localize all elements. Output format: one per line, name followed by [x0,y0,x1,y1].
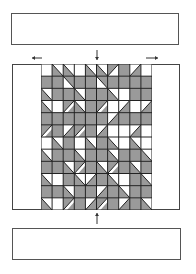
arrow-up-bottom-icon [95,213,99,224]
tile-cell [63,125,74,137]
tile-cell [74,125,85,137]
tile-cell [130,137,141,149]
tile-cell [119,101,130,113]
tile-cell [130,76,141,88]
tile-cell [41,125,52,137]
tile-cell [97,149,108,161]
tile-cell [41,88,52,100]
tile-cell [85,174,96,186]
tile-cell [85,64,96,76]
tile-cell [52,174,63,186]
tile-cell [119,137,130,149]
tile-cell [97,88,108,100]
tile-cell [97,113,108,125]
tile-cell [130,149,141,161]
tile-cell [85,137,96,149]
tile-cell [74,137,85,149]
tile-cell [108,76,119,88]
tile-cell [85,101,96,113]
tile-cell [74,64,85,76]
tile-cell [119,149,130,161]
tile-cell [119,198,130,210]
tile-cell [141,198,152,210]
tile-cell [97,76,108,88]
tile-cell [74,76,85,88]
tile-cell [41,161,52,173]
tile-cell [97,174,108,186]
tile-cell [119,125,130,137]
tile-cell [52,198,63,210]
tile-cell [119,64,130,76]
tile-cell [119,113,130,125]
tile-cell [74,198,85,210]
tile-grid [41,64,152,210]
tile-cell [63,101,74,113]
tile-cell [52,88,63,100]
tile-cell [63,174,74,186]
tile-cell [74,186,85,198]
tile-cell [141,161,152,173]
tile-cell [85,76,96,88]
tile-cell [63,161,74,173]
tile-cell [74,101,85,113]
tile-cell [141,113,152,125]
tile-cell [108,125,119,137]
tile-cell [97,137,108,149]
tile-cell [63,149,74,161]
tile-cell [108,88,119,100]
tile-cell [130,64,141,76]
tile-cell [108,174,119,186]
tile-cell [85,186,96,198]
tile-cell [52,113,63,125]
tile-cell [52,101,63,113]
tile-cell [41,113,52,125]
tile-cell [130,101,141,113]
tile-cell [52,125,63,137]
tile-cell [63,186,74,198]
tile-cell [74,174,85,186]
tile-cell [41,149,52,161]
tile-cell [130,174,141,186]
tile-cell [97,161,108,173]
tile-cell [74,149,85,161]
tile-cell [108,161,119,173]
tile-cell [108,101,119,113]
tile-cell [141,76,152,88]
tile-cell [130,161,141,173]
tile-cell [141,149,152,161]
tile-cell [97,186,108,198]
tile-cell [119,76,130,88]
arrow-left-top-icon [32,56,42,60]
tile-cell [97,64,108,76]
tile-cell [85,149,96,161]
tile-cell [108,137,119,149]
tile-cell [108,186,119,198]
tile-cell [119,186,130,198]
arrow-right-top-icon [146,56,158,60]
tile-cell [85,125,96,137]
tile-cell [119,161,130,173]
tile-cell [74,161,85,173]
tile-cell [52,76,63,88]
arrow-down-top-icon [95,50,99,60]
tile-cell [119,88,130,100]
tile-cell [52,161,63,173]
tile-cell [41,174,52,186]
tile-grid-svg [41,64,152,210]
tile-cell [108,149,119,161]
tile-cell [52,64,63,76]
tile-cell [41,64,52,76]
tile-cell [41,101,52,113]
tile-cell [141,88,152,100]
tile-cell [63,88,74,100]
tile-cell [85,161,96,173]
tile-cell [108,64,119,76]
tile-cell [141,125,152,137]
tile-cell [41,76,52,88]
tile-cell [41,198,52,210]
tile-cell [141,174,152,186]
tile-cell [63,113,74,125]
tile-cell [52,149,63,161]
tile-cell [41,137,52,149]
tile-cell [63,76,74,88]
